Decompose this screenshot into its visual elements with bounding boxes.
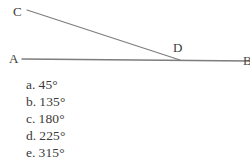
geometry-question-figure: C A D B a.45° b.135° c.180° d.225° e.315… xyxy=(0,0,250,162)
point-label-b: B xyxy=(243,54,250,67)
answer-choice-value: 315° xyxy=(39,145,65,160)
answer-choice-value: 180° xyxy=(39,111,65,126)
answer-choices-list: a.45° b.135° c.180° d.225° e.315° xyxy=(26,76,146,161)
answer-choice-letter: d. xyxy=(26,128,36,143)
answer-choice-letter: e. xyxy=(26,145,36,160)
answer-choice-d[interactable]: d.225° xyxy=(26,127,146,144)
point-label-c: C xyxy=(13,5,22,18)
point-label-d: D xyxy=(173,41,182,54)
answer-choice-c[interactable]: c.180° xyxy=(26,110,146,127)
answer-choice-letter: a. xyxy=(26,77,36,92)
line-segment-cd xyxy=(27,10,180,60)
answer-choice-letter: c. xyxy=(26,111,36,126)
answer-choice-letter: b. xyxy=(26,94,36,109)
answer-choice-value: 225° xyxy=(39,128,65,143)
geometry-diagram: C A D B xyxy=(0,0,250,78)
line-segment-ab xyxy=(22,59,250,61)
answer-choice-value: 45° xyxy=(39,77,58,92)
point-label-a: A xyxy=(9,52,18,65)
answer-choice-e[interactable]: e.315° xyxy=(26,144,146,161)
answer-choice-b[interactable]: b.135° xyxy=(26,93,146,110)
answer-choice-value: 135° xyxy=(39,94,65,109)
answer-choice-a[interactable]: a.45° xyxy=(26,76,146,93)
